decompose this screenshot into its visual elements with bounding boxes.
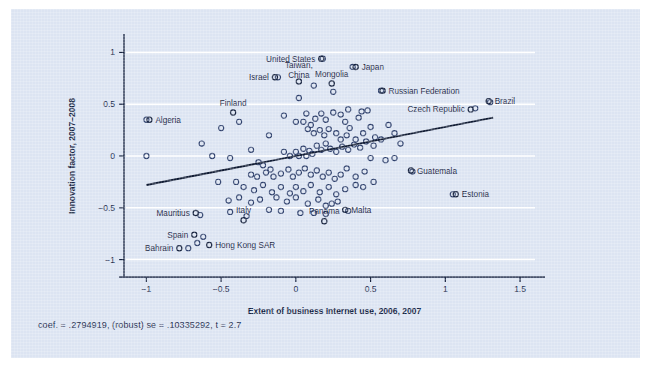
y-axis-title: Innovation factor, 2007–2008 [67, 98, 77, 214]
scatter-point-labeled [192, 232, 197, 237]
scatter-point [343, 119, 348, 124]
scatter-point [293, 195, 298, 200]
x-tick-label: 1 [443, 284, 448, 294]
scatter-point [263, 170, 268, 175]
scatter-point [302, 166, 307, 171]
scatter-point [331, 110, 336, 115]
scatter-point [322, 133, 327, 138]
scatter-point [296, 170, 301, 175]
scatter-point [257, 197, 262, 202]
point-label: Bahrain [145, 244, 174, 253]
point-label: Israel [249, 73, 269, 82]
y-tick-label: −1 [105, 255, 115, 265]
scatter-point-labeled [231, 110, 236, 115]
scatter-point [346, 147, 351, 152]
point-label: Guatemala [417, 167, 457, 176]
point-label: Mauritius [157, 209, 190, 218]
tick-labels: −1−0.500.511.5−1−0.500.51 [98, 47, 526, 294]
y-tick-label: 0.5 [103, 99, 115, 109]
scatter-point [368, 124, 373, 129]
scatter-point [293, 119, 298, 124]
point-label: Russian Federation [389, 87, 460, 96]
point-label: Brazil [495, 97, 516, 106]
x-tick-label: 0.5 [365, 284, 377, 294]
scatter-point [317, 128, 322, 133]
point-label: Malta [351, 206, 371, 215]
chart-figure: −1−0.500.511.5−1−0.500.51 United StatesJ… [11, 9, 640, 358]
scatter-point [290, 174, 295, 179]
scatter-point [334, 192, 339, 197]
point-label: Finland [220, 99, 247, 108]
scatter-plot: −1−0.500.511.5−1−0.500.51 United StatesJ… [11, 9, 640, 358]
scatter-point [278, 184, 283, 189]
scatter-point [362, 169, 367, 174]
scatter-point [371, 143, 376, 148]
point-label: Estonia [462, 190, 490, 199]
scatter-point [219, 125, 224, 130]
point-label: Japan [362, 63, 385, 72]
scatter-point [226, 198, 231, 203]
scatter-point [236, 119, 241, 124]
scatter-point [346, 107, 351, 112]
scatter-point [216, 179, 221, 184]
scatter-point [383, 158, 388, 163]
scatter-point [323, 141, 328, 146]
scatter-point [286, 167, 291, 172]
scatter-point [248, 200, 253, 205]
scatter-point [353, 137, 358, 142]
scatter-point [365, 108, 370, 113]
scatter-point [304, 111, 309, 116]
point-label: Algeria [155, 116, 181, 125]
scatter-point-labeled [207, 242, 212, 247]
scatter-point [386, 122, 391, 127]
gridlines [126, 52, 535, 259]
scatter-point [284, 199, 289, 204]
scatter-point [361, 131, 366, 136]
scatter-point [269, 190, 274, 195]
scatter-point [371, 179, 376, 184]
x-tick-label: 1.5 [514, 284, 526, 294]
point-label: Italy [236, 206, 252, 215]
scatter-point [338, 112, 343, 117]
scatter-point [326, 184, 331, 189]
point-label: Mongolia [315, 70, 349, 79]
scatter-point [334, 149, 339, 154]
data-points [144, 56, 493, 251]
scatter-point [338, 172, 343, 177]
scatter-point-labeled [486, 99, 491, 104]
point-label: Czech Republic [407, 105, 464, 114]
scatter-point [281, 149, 286, 154]
scatter-point [344, 166, 349, 171]
scatter-point [320, 174, 325, 179]
scatter-point [398, 141, 403, 146]
scatter-point [347, 125, 352, 130]
scatter-point-labeled [193, 210, 198, 215]
scatter-point [316, 197, 321, 202]
scatter-point [251, 188, 256, 193]
point-label: Spain [167, 231, 188, 240]
scatter-point [266, 133, 271, 138]
scatter-point-labeled [177, 246, 182, 251]
scatter-point [308, 182, 313, 187]
axis-ticks [119, 52, 520, 282]
scatter-point [332, 176, 337, 181]
scatter-point [236, 195, 241, 200]
point-label: Hong Kong SAR [215, 241, 275, 250]
scatter-point [274, 195, 279, 200]
scatter-point [358, 145, 363, 150]
scatter-point [308, 172, 313, 177]
scatter-point [329, 201, 334, 206]
scatter-point [199, 141, 204, 146]
scatter-point [248, 147, 253, 152]
scatter-point [356, 115, 361, 120]
point-label: Taiwan,China [285, 61, 313, 80]
scatter-point [281, 113, 286, 118]
point-annotations: United StatesJapanTaiwan,ChinaIsraelMong… [145, 55, 515, 254]
scatter-point [314, 143, 319, 148]
scatter-point [248, 172, 253, 177]
scatter-point [254, 174, 259, 179]
scatter-point [195, 240, 200, 245]
scatter-point [319, 111, 324, 116]
scatter-point [331, 89, 336, 94]
scatter-point [343, 187, 348, 192]
